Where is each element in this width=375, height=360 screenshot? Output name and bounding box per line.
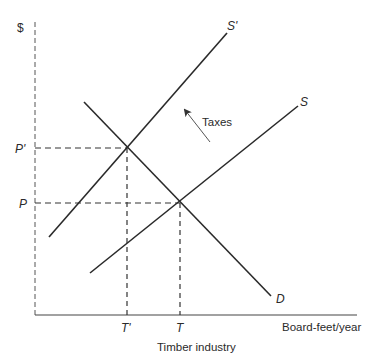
- x-axis-label: Board-feet/year: [282, 321, 361, 333]
- d-label: D: [276, 292, 285, 306]
- y-axis-label: $: [17, 21, 24, 35]
- demand-curve: [84, 102, 271, 296]
- supply-curve: [90, 106, 298, 273]
- supply-demand-diagram: $ P' P T' T S' S D Taxes Board-feet/year…: [0, 0, 375, 360]
- s-label: S: [300, 95, 308, 109]
- t-label: T: [176, 321, 185, 335]
- figure-caption: Timber industry: [157, 341, 236, 353]
- p-prime-label: P': [15, 142, 26, 156]
- s-prime-label: S': [227, 19, 238, 33]
- taxes-annotation: Taxes: [202, 116, 232, 128]
- p-label: P: [19, 197, 27, 211]
- supply-after-tax-curve: [49, 33, 227, 237]
- t-prime-label: T': [121, 321, 131, 335]
